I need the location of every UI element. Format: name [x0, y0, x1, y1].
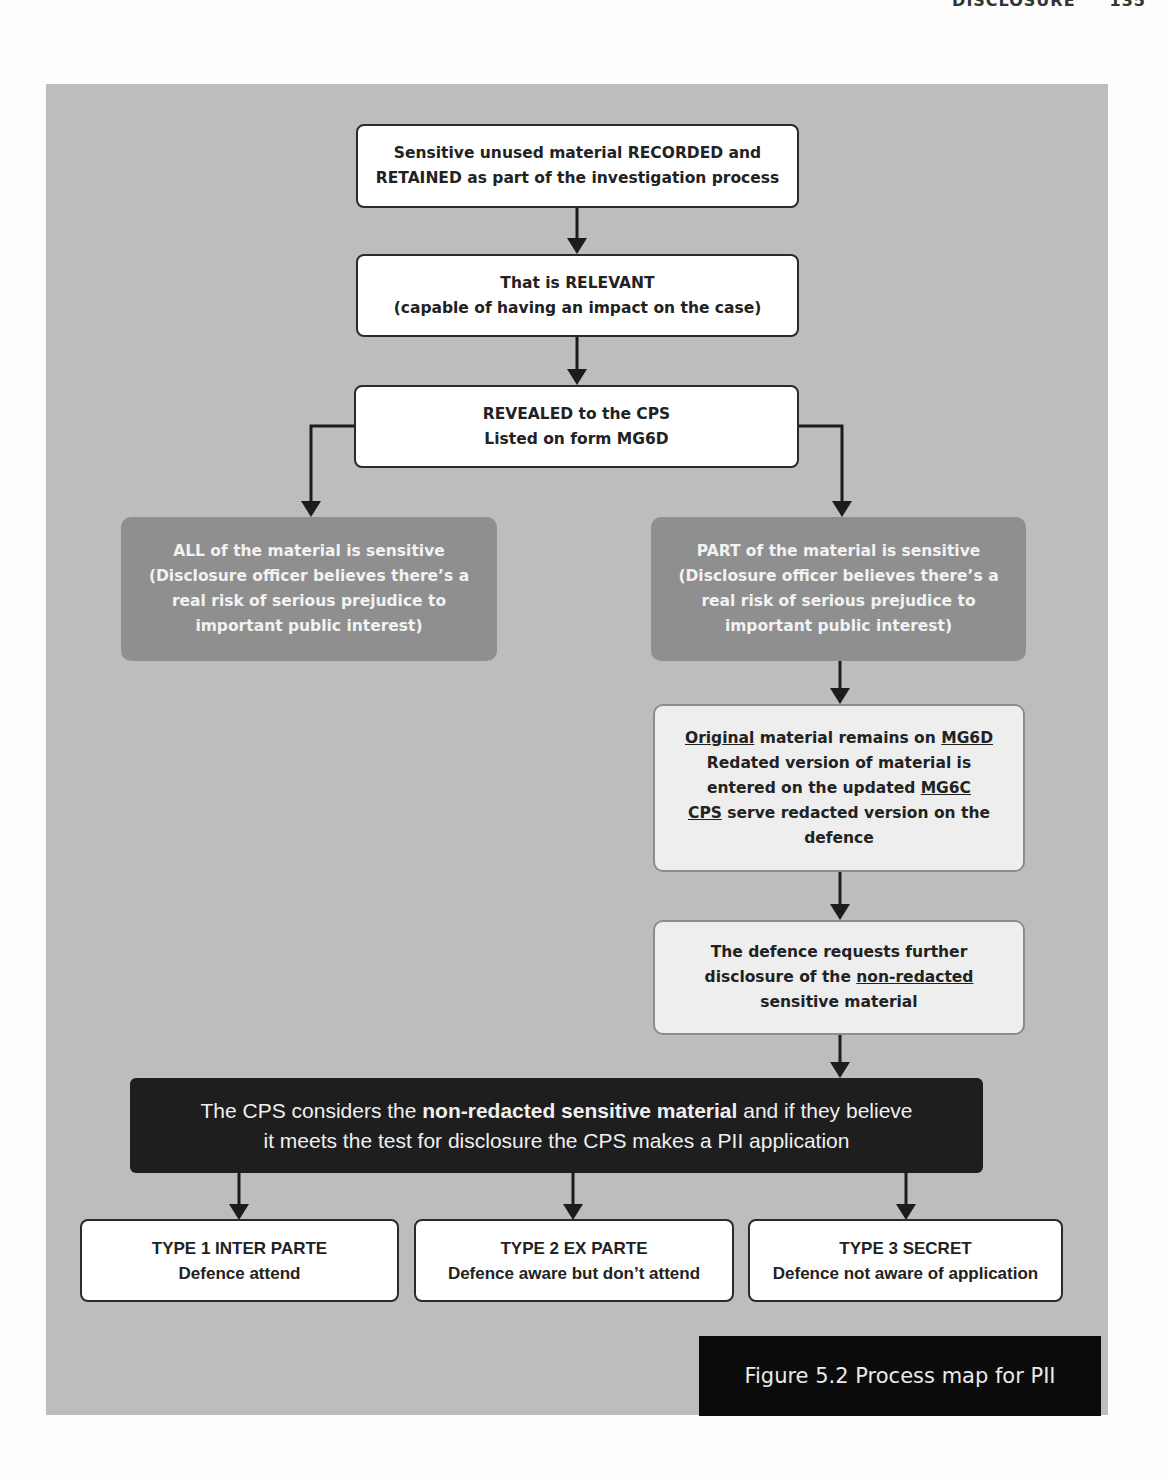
- type-title: TYPE 3 SECRET: [773, 1236, 1038, 1261]
- node-text-line: Redated version of material is: [685, 751, 993, 776]
- node-all-material-sensitive: ALL of the material is sensitive (Disclo…: [121, 517, 497, 661]
- node-text-line: it meets the test for disclosure the CPS…: [200, 1126, 912, 1156]
- node-text-line: real risk of serious prejudice to: [678, 589, 998, 614]
- text-fragment: and if they believe: [737, 1099, 912, 1122]
- type-description: Defence not aware of application: [773, 1261, 1038, 1286]
- underlined-term: Original: [685, 729, 754, 747]
- node-text-line: real risk of serious prejudice to: [149, 589, 469, 614]
- text-fragment: material remains on: [754, 729, 941, 747]
- page-number: 135: [1110, 0, 1146, 10]
- node-text-line: (Disclosure officer believes there’s a: [678, 564, 998, 589]
- node-text-line: The CPS considers the non-redacted sensi…: [200, 1096, 912, 1126]
- underlined-term: non-redacted: [856, 968, 973, 986]
- text-fragment: The CPS considers the: [200, 1099, 422, 1122]
- node-text-line: (Disclosure officer believes there’s a: [149, 564, 469, 589]
- node-text-line: PART of the material is sensitive: [678, 539, 998, 564]
- node-text-line: important public interest): [149, 614, 469, 639]
- node-text-line: Listed on form MG6D: [483, 427, 671, 452]
- type-title: TYPE 2 EX PARTE: [448, 1236, 700, 1261]
- node-type2-ex-parte: TYPE 2 EX PARTE Defence aware but don’t …: [414, 1219, 734, 1302]
- node-text-line: That is RELEVANT: [394, 271, 762, 296]
- node-relevant: That is RELEVANT (capable of having an i…: [356, 254, 799, 337]
- node-text-line: defence: [685, 826, 993, 851]
- node-text-line: sensitive material: [705, 990, 974, 1015]
- node-text-line: Sensitive unused material RECORDED and: [376, 141, 780, 166]
- underlined-term: MG6C: [921, 779, 971, 797]
- running-head: DISCLOSURE: [952, 0, 1076, 10]
- node-text-line: important public interest): [678, 614, 998, 639]
- figure-caption: Figure 5.2 Process map for PII: [699, 1336, 1101, 1416]
- type-title: TYPE 1 INTER PARTE: [152, 1236, 327, 1261]
- node-revealed-to-cps: REVEALED to the CPS Listed on form MG6D: [354, 385, 799, 468]
- node-type1-inter-parte: TYPE 1 INTER PARTE Defence attend: [80, 1219, 399, 1302]
- node-text-line: REVEALED to the CPS: [483, 402, 671, 427]
- type-description: Defence attend: [152, 1261, 327, 1286]
- node-text-line: disclosure of the non-redacted: [705, 965, 974, 990]
- node-text-line: (capable of having an impact on the case…: [394, 296, 762, 321]
- node-type3-secret: TYPE 3 SECRET Defence not aware of appli…: [748, 1219, 1063, 1302]
- type-description: Defence aware but don’t attend: [448, 1261, 700, 1286]
- node-part-material-sensitive: PART of the material is sensitive (Discl…: [651, 517, 1026, 661]
- node-text-line: CPS serve redacted version on the: [685, 801, 993, 826]
- page-header: DISCLOSURE135: [952, 0, 1146, 10]
- underlined-term: MG6D: [941, 729, 993, 747]
- node-text-line: Original material remains on MG6D: [685, 726, 993, 751]
- node-redacted-version: Original material remains on MG6D Redate…: [653, 704, 1025, 872]
- text-fragment: entered on the updated: [707, 779, 921, 797]
- node-text-line: ALL of the material is sensitive: [149, 539, 469, 564]
- node-cps-considers-pii-application: The CPS considers the non-redacted sensi…: [130, 1078, 983, 1173]
- bold-term: non-redacted sensitive material: [422, 1099, 737, 1122]
- node-defence-requests-disclosure: The defence requests further disclosure …: [653, 920, 1025, 1035]
- node-recorded-retained: Sensitive unused material RECORDED and R…: [356, 124, 799, 208]
- node-text-line: The defence requests further: [705, 940, 974, 965]
- underlined-term: CPS: [688, 804, 722, 822]
- node-text-line: RETAINED as part of the investigation pr…: [376, 166, 780, 191]
- text-fragment: disclosure of the: [705, 968, 857, 986]
- text-fragment: serve redacted version on the: [722, 804, 990, 822]
- node-text-line: entered on the updated MG6C: [685, 776, 993, 801]
